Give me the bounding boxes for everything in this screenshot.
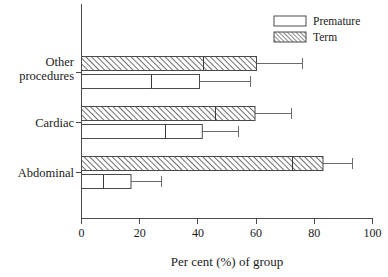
- bar-cardiac-term: [82, 107, 292, 121]
- bar-rect: [82, 125, 203, 139]
- x-tick-label-0: 0: [79, 226, 85, 240]
- x-tick-label-100: 100: [364, 226, 382, 240]
- x-axis-title: Per cent (%) of group: [171, 254, 284, 269]
- bar-abdominal-term: [82, 157, 353, 171]
- x-tick-label-80: 80: [308, 226, 320, 240]
- bar-chart: Premature Term: [0, 0, 388, 277]
- y-label-abdominal: Abdominal: [18, 166, 75, 180]
- bar-rect: [82, 175, 132, 189]
- legend: Premature Term: [274, 15, 360, 43]
- x-axis-tick-labels: 0 20 40 60 80 100: [79, 226, 382, 240]
- bar-rect: [82, 157, 324, 171]
- bar-other-procedures-premature: [82, 75, 251, 89]
- bar-rect: [82, 75, 200, 89]
- y-axis-ticks: [76, 73, 82, 173]
- y-label-other-procedures-line2: procedures: [19, 69, 74, 83]
- bar-group-other-procedures: [82, 57, 303, 89]
- legend-label-term: Term: [313, 31, 337, 43]
- bar-group-cardiac: [82, 107, 292, 139]
- bar-rect: [82, 107, 256, 121]
- legend-label-premature: Premature: [313, 15, 360, 27]
- x-axis-ticks: [82, 219, 373, 225]
- y-label-other-procedures-line1: Other: [46, 55, 75, 69]
- x-tick-label-20: 20: [134, 226, 146, 240]
- x-tick-label-60: 60: [250, 226, 262, 240]
- bar-abdominal-premature: [82, 175, 162, 189]
- figure-container: Premature Term: [0, 0, 388, 277]
- x-tick-label-40: 40: [192, 226, 204, 240]
- bar-rect: [82, 57, 257, 71]
- legend-swatch-term: [274, 32, 306, 42]
- y-label-cardiac: Cardiac: [35, 116, 74, 130]
- y-axis-category-labels: Other procedures Cardiac Abdominal: [18, 55, 75, 180]
- bar-cardiac-premature: [82, 125, 239, 139]
- bar-other-procedures-term: [82, 57, 303, 71]
- legend-swatch-premature: [274, 16, 306, 26]
- bar-group-abdominal: [82, 157, 353, 189]
